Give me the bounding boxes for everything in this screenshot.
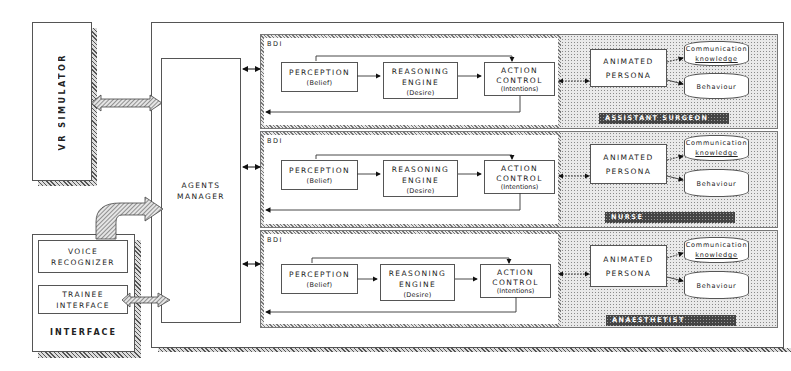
voice-recognizer-curved-arrow [96,197,163,239]
trainee-interface-double-arrow [122,293,170,307]
vr-agents-double-arrow [91,95,162,111]
